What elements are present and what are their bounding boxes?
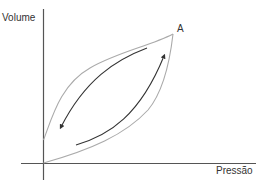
- hysteresis-diagram: Volume Pressão A: [0, 0, 270, 185]
- x-axis-label: Pressão: [216, 166, 253, 176]
- upper-arrow: [61, 48, 147, 127]
- loop-lower-curve: [44, 34, 174, 163]
- y-axis-label: Volume: [2, 13, 35, 23]
- point-a-label: A: [177, 24, 184, 34]
- lower-arrow: [76, 56, 164, 145]
